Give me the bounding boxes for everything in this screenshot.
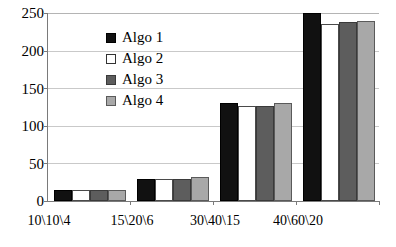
bar-algo3-group1 (90, 190, 108, 201)
y-tick-100 (44, 126, 48, 127)
y-axis-label-150: 150 (4, 82, 44, 97)
x-tick-3 (296, 201, 297, 205)
bar-algo2-group4 (321, 24, 339, 201)
y-axis-label-100: 100 (4, 119, 44, 134)
bar-algo2-group1 (72, 190, 90, 201)
bar-algo4-group1 (108, 190, 126, 201)
x-tick-1 (130, 201, 131, 205)
y-axis-label-50: 50 (4, 157, 44, 172)
bar-algo3-group4 (339, 22, 357, 201)
bar-algo1-group2 (137, 179, 155, 201)
x-tick-4 (379, 201, 380, 205)
legend-item-algo2: Algo 2 (106, 48, 163, 69)
y-axis-label-200: 200 (4, 44, 44, 59)
legend-swatch-icon-algo4 (106, 96, 116, 106)
bar-algo2-group3 (238, 106, 256, 201)
legend-label-algo1: Algo 1 (122, 30, 163, 45)
y-tick-250 (44, 13, 48, 14)
legend-swatch-icon-algo3 (106, 75, 116, 85)
bar-algo3-group3 (256, 106, 274, 201)
bar-algo4-group4 (357, 21, 375, 201)
bar-algo4-group3 (274, 103, 292, 201)
bar-algo1-group1 (54, 190, 72, 201)
y-tick-50 (44, 163, 48, 164)
bar-group-3 (216, 13, 298, 201)
bar-group-4 (299, 13, 381, 201)
legend-item-algo1: Algo 1 (106, 27, 163, 48)
plot-area: Algo 1 Algo 2 Algo 3 Algo 4 (47, 13, 379, 202)
legend-label-algo2: Algo 2 (122, 51, 163, 66)
bar-chart: 250 200 150 100 50 0 (0, 0, 396, 247)
y-axis-label-0: 0 (4, 194, 44, 209)
y-tick-0 (44, 201, 48, 202)
x-axis-label-4: 40\60\20 (243, 214, 353, 228)
legend-label-algo3: Algo 3 (122, 72, 163, 87)
y-tick-200 (44, 51, 48, 52)
bar-algo1-group3 (220, 103, 238, 201)
legend-swatch-icon-algo2 (106, 54, 116, 64)
legend-label-algo4: Algo 4 (122, 93, 163, 108)
x-tick-2 (213, 201, 214, 205)
bar-algo4-group2 (191, 177, 209, 201)
legend-swatch-icon-algo1 (106, 33, 116, 43)
legend: Algo 1 Algo 2 Algo 3 Algo 4 (106, 27, 163, 111)
y-axis-label-250: 250 (4, 6, 44, 21)
legend-item-algo3: Algo 3 (106, 69, 163, 90)
bar-algo3-group2 (173, 179, 191, 201)
bar-algo2-group2 (155, 179, 173, 201)
y-tick-150 (44, 88, 48, 89)
legend-item-algo4: Algo 4 (106, 90, 163, 111)
bar-algo1-group4 (303, 13, 321, 201)
